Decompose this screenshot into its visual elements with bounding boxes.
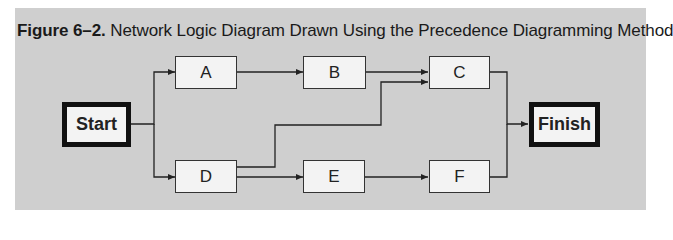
node-start: Start <box>62 102 131 147</box>
node-label: D <box>200 167 212 187</box>
node-b: B <box>303 56 366 89</box>
edge-start-a <box>131 72 175 124</box>
edge-c-finish <box>489 72 528 124</box>
node-finish: Finish <box>529 102 600 147</box>
node-label: Finish <box>538 114 591 135</box>
node-label: B <box>329 63 340 83</box>
node-label: C <box>453 63 465 83</box>
node-label: F <box>454 167 464 187</box>
node-d: D <box>175 160 237 193</box>
edge-d-c <box>236 82 428 167</box>
node-label: A <box>200 63 211 83</box>
node-label: E <box>328 167 339 187</box>
node-c: C <box>429 56 490 89</box>
node-label: Start <box>76 114 117 135</box>
node-f: F <box>429 160 490 193</box>
node-e: E <box>303 160 365 193</box>
edge-start-d <box>154 124 175 177</box>
node-a: A <box>175 56 237 89</box>
edge-f-finish <box>489 124 507 177</box>
